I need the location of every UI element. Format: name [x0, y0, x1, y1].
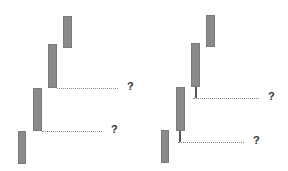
- dotted-guide-line: [42, 131, 102, 132]
- dotted-guide-line: [193, 98, 259, 99]
- dotted-guide-line: [57, 88, 118, 89]
- candle-bar: [18, 131, 26, 164]
- dotted-guide-line: [178, 142, 244, 143]
- question-mark-label: ?: [253, 135, 260, 146]
- question-mark-label: ?: [111, 124, 118, 135]
- candle-wick: [179, 131, 181, 142]
- candle-bar: [48, 44, 57, 88]
- question-mark-label: ?: [127, 81, 134, 92]
- candle-wick: [195, 87, 197, 98]
- candle-bar: [176, 87, 185, 131]
- candle-bar: [33, 88, 42, 131]
- candle-bar: [206, 15, 215, 47]
- question-mark-label: ?: [268, 91, 275, 102]
- candle-bar: [161, 130, 169, 163]
- candle-bar: [63, 16, 72, 48]
- candle-bar: [191, 43, 200, 87]
